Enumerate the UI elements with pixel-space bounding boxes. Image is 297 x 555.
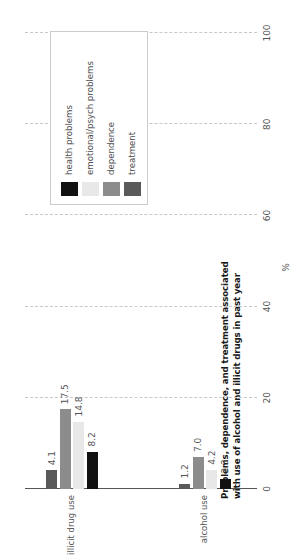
legend-swatch-icon [61, 182, 78, 196]
bar-illicit-drug-use-dependence [60, 409, 71, 489]
bar-value-label: 17.5 [60, 384, 70, 404]
legend-label: treatment [127, 132, 137, 175]
legend-item-dependence[interactable]: dependence [101, 122, 121, 196]
x-tick-label-80: 80 [262, 118, 272, 129]
bar-alcohol-use-treatment [179, 484, 190, 489]
bar-illicit-drug-use-health-problems [87, 452, 98, 489]
bar-value-label: 2.3 [220, 459, 230, 473]
category-label-alcohol-use: alcohol use [199, 495, 209, 543]
bar-illicit-drug-use-emotional-psych-problems [73, 422, 84, 489]
bar-value-label: 4.1 [47, 451, 57, 465]
x-tick-label-60: 60 [262, 210, 272, 221]
legend-swatch-icon [82, 182, 99, 196]
legend-label: emotional/psych problems [85, 61, 95, 175]
legend-item-health-problems[interactable]: health problems [59, 105, 79, 196]
bar-value-label: 1.2 [180, 464, 190, 478]
x-tick-label-20: 20 [262, 392, 272, 403]
bar-illicit-drug-use-treatment [46, 470, 57, 489]
category-label-illicit-drug-use: illicit drug use [66, 495, 76, 555]
value-axis-title: % [281, 0, 291, 535]
gridline-40 [25, 306, 257, 307]
bar-alcohol-use-health-problems [220, 479, 231, 489]
bar-value-label: 14.8 [74, 396, 84, 416]
legend-label: dependence [106, 122, 116, 175]
chart-legend: health problemsemotional/psych problemsd… [50, 31, 148, 205]
x-tick-label-0: 0 [262, 486, 272, 492]
x-tick-label-100: 100 [262, 24, 272, 41]
bar-value-label: 8.2 [87, 432, 97, 446]
x-tick-label-40: 40 [262, 301, 272, 312]
bar-alcohol-use-dependence [193, 457, 204, 489]
bar-alcohol-use-emotional-psych-problems [206, 470, 217, 489]
legend-item-treatment[interactable]: treatment [122, 132, 142, 196]
bar-value-label: 4.2 [207, 451, 217, 465]
legend-item-emotional-psych-problems[interactable]: emotional/psych problems [80, 61, 100, 196]
bar-value-label: 7.0 [193, 438, 203, 452]
legend-swatch-icon [124, 182, 141, 196]
legend-swatch-icon [103, 182, 120, 196]
legend-label: health problems [64, 105, 74, 175]
gridline-60 [25, 214, 257, 215]
